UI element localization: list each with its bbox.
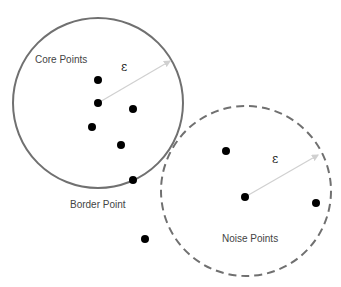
noise-point: [222, 147, 230, 155]
epsilon-radius-arrow-2: [245, 155, 318, 197]
dbscan-diagram: Core Points ε Border Point ε Noise Point…: [0, 0, 341, 287]
core-point: [94, 99, 102, 107]
noise-point: [312, 199, 320, 207]
core-point: [129, 105, 137, 113]
border-point-label: Border Point: [70, 199, 126, 210]
core-point: [88, 123, 96, 131]
noise-points-label: Noise Points: [222, 233, 278, 244]
epsilon-radius-arrow-1: [98, 61, 170, 103]
epsilon-label-1: ε: [121, 60, 127, 74]
core-point: [94, 76, 102, 84]
noise-point: [141, 235, 149, 243]
noise-neighborhood-circle: [161, 106, 331, 276]
data-points: [88, 76, 320, 243]
noise-point: [241, 193, 249, 201]
diagram-graphics: [0, 0, 341, 287]
core-points-label: Core Points: [35, 54, 87, 65]
border-point: [129, 176, 137, 184]
core-point: [117, 141, 125, 149]
epsilon-label-2: ε: [272, 152, 278, 166]
